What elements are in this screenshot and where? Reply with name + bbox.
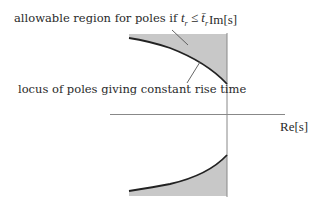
imaginary-axis-label: Im[s] [209, 13, 237, 26]
rise-time-bound-subscript: r [205, 19, 208, 28]
leq-operator: ≤ [188, 10, 202, 25]
s-plane-diagram: allowable region for poles if tr ≤ t̄r I… [0, 0, 322, 204]
locus-leader [187, 62, 200, 83]
real-axis-label: Re[s] [280, 120, 308, 133]
allowable-region-label: allowable region for poles if tr ≤ t̄r [14, 11, 208, 28]
allowable-region-text: allowable region for poles if [14, 11, 181, 25]
locus-label: locus of poles giving constant rise time [18, 84, 246, 96]
s-plane-svg [0, 0, 322, 204]
lower-allowable-region [129, 155, 227, 196]
